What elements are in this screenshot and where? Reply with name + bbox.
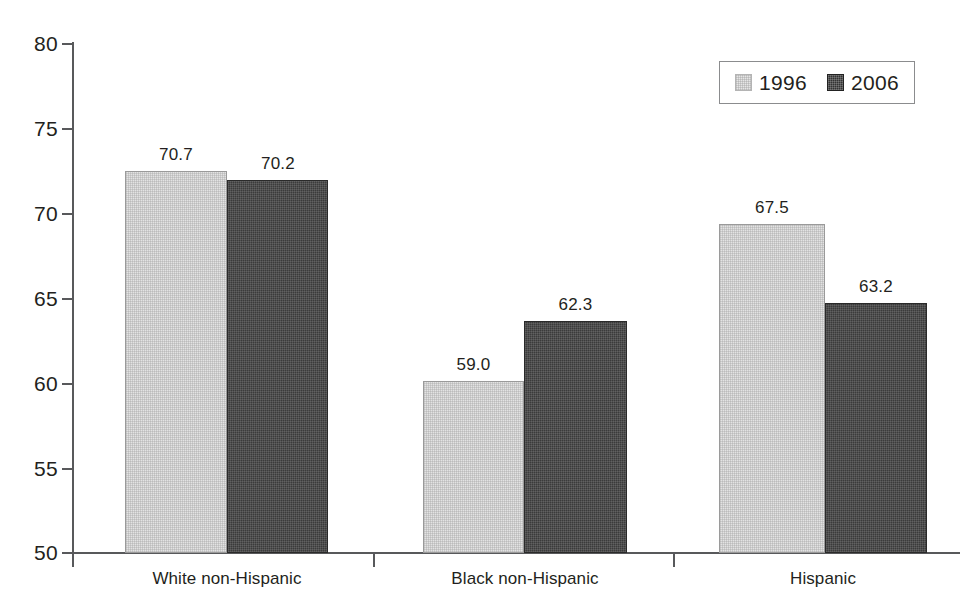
- y-tick-label-80: 80: [4, 33, 58, 54]
- bar-chart: 80 75 70 65 60 55 50 70.7 70.2 59.0 62.3…: [0, 0, 978, 616]
- legend-label-2006: 2006: [851, 72, 899, 93]
- legend-swatch-icon-2006: [827, 74, 844, 91]
- y-tick-75: [62, 128, 73, 130]
- bar-white-non-hispanic-1996: [125, 171, 227, 553]
- bar-hispanic-1996: [719, 224, 825, 553]
- x-tick-sep-2: [673, 554, 675, 567]
- legend-entry-2006: 2006: [827, 72, 899, 93]
- bar-value-hispanic-2006: 63.2: [826, 278, 926, 295]
- y-tick-label-75: 75: [4, 118, 58, 139]
- y-tick-label-55: 55: [4, 458, 58, 479]
- category-label-white-non-hispanic: White non-Hispanic: [122, 570, 332, 588]
- bar-value-hispanic-1996: 67.5: [720, 199, 824, 216]
- y-tick-60: [62, 383, 73, 385]
- y-tick-70: [62, 213, 73, 215]
- y-tick-label-60: 60: [4, 373, 58, 394]
- y-tick-label-65: 65: [4, 288, 58, 309]
- y-tick-55: [62, 468, 73, 470]
- category-label-hispanic: Hispanic: [718, 570, 928, 588]
- bar-value-black-non-hispanic-1996: 59.0: [424, 356, 523, 373]
- legend-label-1996: 1996: [759, 72, 807, 93]
- x-tick-sep-1: [373, 554, 375, 567]
- bar-hispanic-2006: [825, 303, 927, 553]
- x-tick-start: [72, 554, 74, 567]
- y-tick-label-50: 50: [4, 542, 58, 563]
- legend-entry-1996: 1996: [735, 72, 807, 93]
- y-tick-65: [62, 298, 73, 300]
- bar-value-white-non-hispanic-1996: 70.7: [126, 146, 226, 163]
- bar-value-white-non-hispanic-2006: 70.2: [228, 155, 328, 172]
- category-label-black-non-hispanic: Black non-Hispanic: [420, 570, 630, 588]
- y-tick-80: [62, 43, 73, 45]
- y-tick-label-70: 70: [4, 203, 58, 224]
- bar-black-non-hispanic-1996: [423, 381, 524, 553]
- legend: 1996 2006: [719, 61, 915, 104]
- bar-black-non-hispanic-2006: [524, 321, 627, 553]
- bar-white-non-hispanic-2006: [227, 180, 328, 553]
- legend-swatch-icon-1996: [735, 74, 752, 91]
- bar-value-black-non-hispanic-2006: 62.3: [525, 296, 626, 313]
